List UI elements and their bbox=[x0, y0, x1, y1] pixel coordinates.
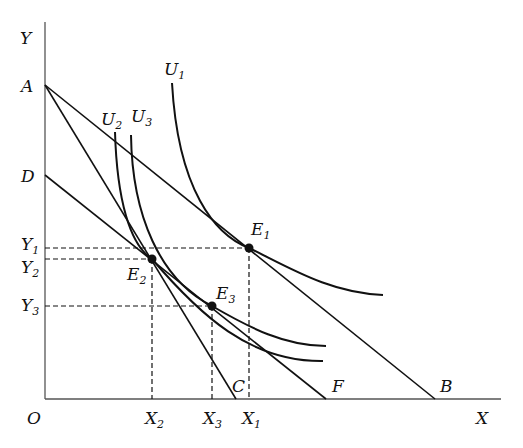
label-x2: X2 bbox=[143, 408, 164, 431]
budget-line-ac bbox=[45, 85, 236, 399]
label-c: C bbox=[232, 376, 245, 396]
point-e2 bbox=[148, 255, 157, 264]
label-e3: E3 bbox=[215, 283, 235, 306]
label-d: D bbox=[20, 166, 35, 186]
label-e2: E2 bbox=[126, 264, 146, 287]
label-x1: X1 bbox=[240, 408, 261, 431]
x-axis-label: X bbox=[474, 408, 489, 428]
label-f: F bbox=[331, 376, 345, 396]
point-e1 bbox=[245, 244, 254, 253]
indifference-curve-u3 bbox=[131, 135, 326, 346]
label-b: B bbox=[439, 376, 453, 396]
origin-label: O bbox=[27, 408, 41, 428]
label-y2: Y2 bbox=[21, 257, 39, 280]
indifference-curve-u1 bbox=[172, 83, 383, 295]
label-y3: Y3 bbox=[21, 295, 39, 318]
indifference-curve-diagram: Y X O A D C F B U1 U2 U3 E1 E2 E3 Y1 Y2 … bbox=[0, 0, 523, 448]
label-e1: E1 bbox=[250, 219, 270, 242]
label-x3: X3 bbox=[201, 408, 222, 431]
label-a: A bbox=[19, 76, 33, 96]
label-u3: U3 bbox=[131, 106, 152, 129]
label-u2: U2 bbox=[101, 109, 122, 132]
label-u1: U1 bbox=[164, 59, 185, 82]
label-y1: Y1 bbox=[21, 234, 39, 257]
budget-line-ab bbox=[45, 85, 435, 399]
y-axis-label: Y bbox=[20, 28, 33, 48]
